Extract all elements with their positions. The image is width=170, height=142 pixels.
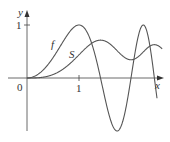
S-curve — [27, 40, 162, 78]
y-axis-label: y — [17, 6, 23, 18]
S-curve-label: S — [69, 48, 75, 60]
y-tick-label-1: 1 — [16, 19, 22, 31]
origin-label: 0 — [17, 81, 23, 93]
chart: y x 0 1 1 f S — [0, 0, 170, 142]
f-curve-label: f — [51, 38, 56, 50]
y-axis-arrow-icon — [25, 10, 30, 17]
x-tick-label-1: 1 — [76, 82, 82, 94]
